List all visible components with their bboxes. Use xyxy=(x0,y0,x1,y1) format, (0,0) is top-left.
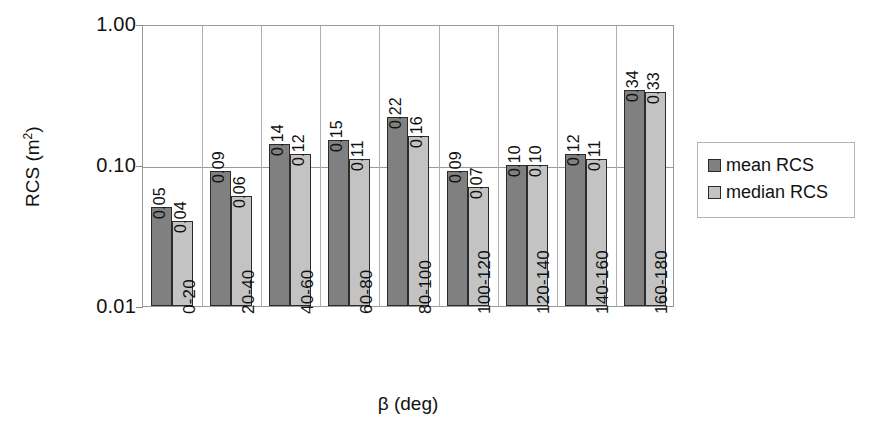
x-axis-tick-label: 60-80 xyxy=(358,270,375,314)
bar-value-label: 0.07 xyxy=(469,167,485,199)
legend-label: mean RCS xyxy=(726,155,814,176)
bar-value-label: 0.14 xyxy=(270,124,286,156)
x-axis-tick-label: 40-60 xyxy=(299,270,316,314)
bar-value-label: 0.10 xyxy=(528,145,544,177)
rcs-bar-chart-figure: RCS (m2) 1.000.100.01 0.050.040.090.060.… xyxy=(0,0,879,428)
legend-swatch-mean xyxy=(708,159,721,172)
bar-value-label: 0.12 xyxy=(566,134,582,166)
chart-legend: mean RCSmedian RCS xyxy=(697,142,855,218)
bar-value-label: 0.11 xyxy=(587,140,603,171)
x-axis-tick-label: 140-160 xyxy=(594,250,611,314)
bar-group: 0.140.12 xyxy=(261,26,320,306)
legend-label: median RCS xyxy=(726,182,828,203)
bar-value-label: 0.09 xyxy=(211,151,227,183)
x-axis-tick-label: 100-120 xyxy=(476,250,493,314)
bar-value-label: 0.09 xyxy=(448,151,464,183)
bar-mean[interactable] xyxy=(269,144,290,306)
x-axis-tick-label: 160-180 xyxy=(653,250,670,314)
bar-value-label: 0.10 xyxy=(507,145,523,177)
bar-group: 0.090.06 xyxy=(202,26,261,306)
y-axis-tick-label: 0.10 xyxy=(66,155,136,175)
legend-swatch-median xyxy=(708,186,721,199)
bar-mean[interactable] xyxy=(387,117,408,306)
bar-value-label: 0.15 xyxy=(329,120,345,152)
bar-mean[interactable] xyxy=(565,154,586,306)
y-axis-title-text: RCS (m2) xyxy=(23,126,44,207)
bar-value-label: 0.11 xyxy=(350,140,366,171)
bar-value-label: 0.33 xyxy=(646,72,662,104)
y-axis-title: RCS (m2) xyxy=(21,87,44,247)
y-axis-tick-labels: 1.000.100.01 xyxy=(58,0,136,428)
bar-mean[interactable] xyxy=(151,207,172,306)
y-axis-tick-mark xyxy=(136,307,143,308)
x-axis-tick-label: 120-140 xyxy=(535,250,552,314)
bar-group: 0.150.11 xyxy=(320,26,379,306)
bar-value-label: 0.04 xyxy=(173,201,189,233)
y-axis-tick-label: 0.01 xyxy=(66,296,136,316)
bar-value-label: 0.16 xyxy=(409,116,425,148)
bar-value-label: 0.12 xyxy=(291,134,307,166)
bar-mean[interactable] xyxy=(624,90,645,306)
x-axis-title: β (deg) xyxy=(142,393,674,415)
bar-mean[interactable] xyxy=(210,171,231,306)
bar-group: 0.050.04 xyxy=(143,26,202,306)
bar-mean[interactable] xyxy=(447,171,468,306)
legend-item[interactable]: median RCS xyxy=(708,179,844,206)
bar-value-label: 0.05 xyxy=(152,187,168,219)
y-axis-tick-mark xyxy=(136,166,143,167)
x-axis-tick-label: 80-100 xyxy=(417,260,434,314)
bar-mean[interactable] xyxy=(506,165,527,306)
bar-mean[interactable] xyxy=(328,140,349,306)
x-axis-tick-label: 20-40 xyxy=(240,270,257,314)
y-axis-tick-mark xyxy=(136,25,143,26)
bar-value-label: 0.34 xyxy=(625,70,641,102)
y-axis-tick-label: 1.00 xyxy=(66,14,136,34)
bar-value-label: 0.22 xyxy=(388,97,404,129)
x-axis-tick-label: 0-20 xyxy=(181,279,198,314)
legend-item[interactable]: mean RCS xyxy=(708,152,844,179)
bar-value-label: 0.06 xyxy=(232,176,248,208)
